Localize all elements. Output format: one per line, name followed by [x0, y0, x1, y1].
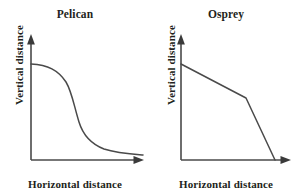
x-axis-pelican: [31, 156, 144, 164]
plot-area-pelican: [0, 30, 150, 170]
y-axis-osprey: [177, 34, 185, 160]
plot-area-osprey: [151, 30, 301, 170]
chart-panel-osprey: Osprey Vertical distance Horizontal dist…: [151, 0, 301, 195]
figure-two-flight-path-charts: Pelican Vertical distance Horizontal dis…: [0, 0, 301, 195]
x-axis-label-pelican: Horizontal distance: [0, 178, 150, 190]
x-axis-label-osprey: Horizontal distance: [151, 178, 301, 190]
data-curve-pelican: [31, 64, 143, 155]
y-axis-pelican: [27, 34, 35, 160]
data-curve-osprey: [181, 64, 275, 160]
chart-panel-pelican: Pelican Vertical distance Horizontal dis…: [0, 0, 150, 195]
